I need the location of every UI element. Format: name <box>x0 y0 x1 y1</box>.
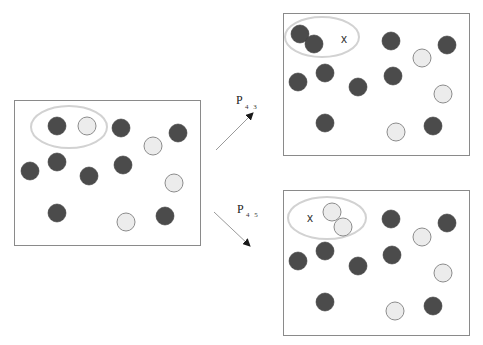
dark-particle <box>21 162 39 180</box>
dark-particle <box>438 214 456 232</box>
probability-label: P <box>236 93 243 107</box>
dark-particle <box>384 67 402 85</box>
probability-subscript: 4 3 <box>245 103 258 111</box>
panel-initial <box>15 101 201 246</box>
light-particle <box>323 203 341 221</box>
panel-transition-43: x <box>284 14 470 156</box>
dark-particle <box>48 204 66 222</box>
dark-particle <box>48 153 66 171</box>
dark-particle <box>316 64 334 82</box>
arrow-p43: P4 3 <box>216 93 258 150</box>
light-particle <box>434 85 452 103</box>
light-particle <box>413 49 431 67</box>
dark-particle <box>289 252 307 270</box>
dark-particle <box>48 117 66 135</box>
panel-frame <box>284 14 470 156</box>
light-particle <box>386 302 404 320</box>
dark-particle <box>349 257 367 275</box>
dark-particle <box>424 117 442 135</box>
light-particle <box>334 218 352 236</box>
dark-particle <box>80 167 98 185</box>
light-particle <box>387 123 405 141</box>
dark-particle <box>156 207 174 225</box>
dark-particle <box>349 78 367 96</box>
transition-arrow <box>214 212 250 246</box>
light-particle <box>144 137 162 155</box>
dark-particle <box>424 297 442 315</box>
dark-particle <box>112 119 130 137</box>
arrows-layer: P4 3P4 5 <box>214 93 259 246</box>
arrow-p45: P4 5 <box>214 202 259 246</box>
transition-arrow <box>216 113 253 150</box>
light-particle <box>78 117 96 135</box>
dark-particle <box>289 73 307 91</box>
light-particle <box>434 264 452 282</box>
light-particle <box>165 174 183 192</box>
dark-particle <box>316 293 334 311</box>
vacancy-marker: x <box>307 211 313 225</box>
dark-particle <box>316 242 334 260</box>
dark-particle <box>305 35 323 53</box>
probability-label: P <box>237 202 244 216</box>
probability-subscript: 4 5 <box>246 211 259 219</box>
panel-frame <box>15 101 201 246</box>
dark-particle <box>382 210 400 228</box>
dark-particle <box>114 156 132 174</box>
dark-particle <box>383 246 401 264</box>
particle-transition-diagram: xx P4 3P4 5 <box>0 0 483 345</box>
dark-particle <box>438 36 456 54</box>
dark-particle <box>382 32 400 50</box>
vacancy-marker: x <box>341 32 347 46</box>
light-particle <box>117 213 135 231</box>
panels-layer: xx <box>15 14 470 336</box>
dark-particle <box>316 114 334 132</box>
panel-transition-45: x <box>284 191 470 336</box>
dark-particle <box>169 124 187 142</box>
light-particle <box>413 228 431 246</box>
